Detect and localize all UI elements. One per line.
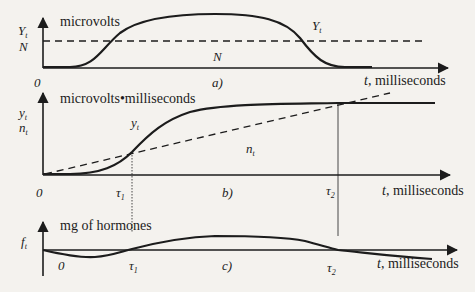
origin-label: 0 xyxy=(34,75,41,90)
x-axis-label: t, milliseconds xyxy=(377,256,459,271)
panel-caption-b: b) xyxy=(222,185,233,200)
integral-curve xyxy=(43,103,435,174)
y-label-n: nt xyxy=(19,120,29,137)
x-axis-label: t, milliseconds xyxy=(382,183,464,198)
curve-label-Y: Yt xyxy=(312,18,322,35)
line-label-n: nt xyxy=(246,141,256,158)
tau1-label: τ1 xyxy=(116,185,125,202)
panel-a: microvolts Yt N Yt N 0 a) t, millisecond… xyxy=(18,14,448,90)
threshold-label-N: N xyxy=(212,49,223,64)
y-unit-label: mg of hormones xyxy=(60,218,152,233)
panel-c: mg of hormones ft 0 τ1 c) τ2 t, millisec… xyxy=(21,218,459,277)
diagram: microvolts Yt N Yt N 0 a) t, millisecond… xyxy=(0,0,475,292)
y-label-f: ft xyxy=(21,234,28,251)
origin-label: 0 xyxy=(36,185,43,200)
y-label-Y: Yt xyxy=(18,23,28,40)
tau1-label: τ1 xyxy=(129,258,138,275)
tau2-label: τ2 xyxy=(326,183,335,200)
y-unit-label: microvolts xyxy=(60,14,120,29)
x-axis-label: t, milliseconds xyxy=(364,73,446,88)
y-unit-label: microvolts•milliseconds xyxy=(60,91,196,106)
tau2-label: τ2 xyxy=(327,260,336,277)
panel-caption-c: c) xyxy=(222,258,232,273)
hormone-curve xyxy=(43,236,432,259)
panel-caption-a: a) xyxy=(212,75,223,90)
panel-b: microvolts•milliseconds yt nt yt nt 0 τ1… xyxy=(17,91,464,236)
curve-label-y: yt xyxy=(129,115,140,132)
origin-label: 0 xyxy=(58,258,65,273)
y-label-N: N xyxy=(18,39,29,54)
